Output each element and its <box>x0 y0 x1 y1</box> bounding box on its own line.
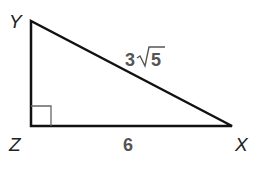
vertex-label-x: X <box>234 134 249 155</box>
hypotenuse-coefficient: 3 <box>125 50 135 70</box>
triangle-diagram: Y Z X 3 5 6 <box>0 0 262 172</box>
hypotenuse-radicand: 5 <box>151 50 161 70</box>
triangle-xyz <box>31 21 232 126</box>
base-label: 6 <box>123 135 133 155</box>
vertex-label-y: Y <box>9 11 23 32</box>
vertex-label-z: Z <box>8 134 22 155</box>
hypotenuse-label: 3 <box>125 50 135 70</box>
right-angle-marker <box>31 106 51 126</box>
